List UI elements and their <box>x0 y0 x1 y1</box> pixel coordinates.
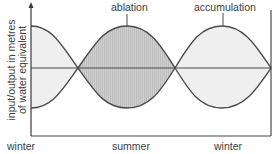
y-axis-arrow-icon <box>29 2 34 8</box>
glacier-budget-diagram <box>0 0 280 154</box>
y-axis-label: input/output in metres of water equivale… <box>6 10 28 130</box>
x-label-winter-left: winter <box>7 141 35 152</box>
ablation-label: ablation <box>111 2 148 13</box>
x-label-winter-right: winter <box>214 141 242 152</box>
x-label-summer: summer <box>112 141 150 152</box>
y-axis-label-line2: of water equivalent <box>17 10 28 130</box>
accumulation-label: accumulation <box>194 2 256 13</box>
